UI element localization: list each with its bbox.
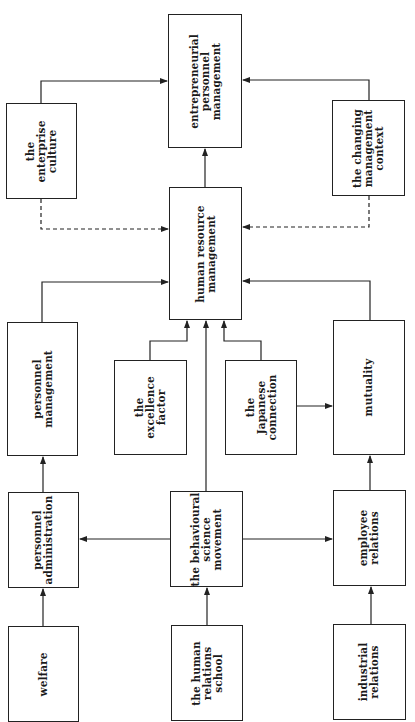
node-personnel-administration: personnel administration [8,492,79,588]
edge-changing-to-entrepreneurial [243,80,369,100]
node-label: personnel administration [33,496,55,585]
node-label: personnel management [32,350,54,428]
node-employee-relations: employee relations [333,490,406,586]
node-label: human resource management [195,205,217,302]
node-entrepreneurial-personnel-management: entrepreneurial personnel management [168,14,242,148]
edge-personnel-mgmt-to-hrm [42,282,168,322]
node-label: employee relations [358,510,380,566]
node-enterprise-culture: the enterprise culture [6,103,77,199]
node-label: industrial relations [359,643,381,702]
node-human-relations-school: the human relations school [171,625,243,721]
node-label: welfare [38,652,49,696]
node-label: the changing management context [352,109,385,188]
node-label: the behavioural science movement [190,492,223,586]
edge-japanese-to-hrm [224,321,261,360]
node-label: the Japanese connection [245,374,278,440]
node-excellence-factor: the excellence factor [114,360,187,455]
node-label: the enterprise culture [25,120,58,182]
node-behavioural-science-movement: the behavioural science movement [170,491,243,587]
edge-enterprise-to-hrm-dashed [41,199,168,229]
node-label: the excellence factor [134,376,167,438]
edge-changing-to-hrm-dashed [243,196,369,227]
node-label: entrepreneurial personnel management [189,34,222,129]
node-changing-management-context: the changing management context [332,100,405,196]
node-label: mutuality [364,359,375,417]
edge-excellence-to-hrm [150,321,187,360]
node-human-resource-management: human resource management [169,187,242,320]
node-japanese-connection: the Japanese connection [225,360,297,455]
edge-mutuality-to-hrm [243,281,370,320]
node-welfare: welfare [8,626,79,722]
node-industrial-relations: industrial relations [333,624,406,720]
node-label: the human relations school [190,641,223,706]
node-personnel-management: personnel management [7,322,78,456]
node-mutuality: mutuality [333,320,405,455]
edge-enterprise-to-entrepreneurial [41,81,167,103]
